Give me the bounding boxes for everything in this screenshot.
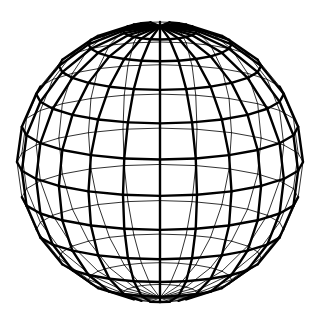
meridian-line: [62, 174, 72, 209]
latitude-line: [62, 99, 91, 104]
latitude-line: [248, 109, 268, 115]
figure-canvas: [0, 0, 318, 323]
latitude-line: [160, 195, 197, 196]
latitude-line: [186, 279, 210, 281]
latitude-line: [124, 229, 160, 230]
latitude-line: [170, 285, 179, 286]
latitude-line: [72, 241, 88, 246]
latitude-line: [62, 169, 91, 174]
meridian-line: [211, 205, 222, 238]
latitude-line: [160, 94, 196, 95]
meridian-line: [258, 104, 261, 138]
latitude-line: [232, 78, 248, 83]
latitude-line: [186, 87, 210, 89]
latitude-line: [197, 191, 231, 194]
latitude-line: [211, 53, 222, 57]
latitude-line: [124, 164, 160, 165]
latitude-line: [197, 129, 231, 132]
meridian-line: [196, 158, 197, 194]
latitude-line: [186, 235, 210, 237]
latitude-line: [72, 205, 98, 210]
meridian-line: [179, 61, 187, 89]
latitude-line: [196, 166, 229, 169]
meridian-line: [22, 94, 36, 127]
latitude-line: [123, 195, 160, 196]
latitude-line: [211, 237, 232, 241]
meridian-line: [40, 181, 52, 215]
latitude-line: [36, 179, 59, 186]
meridian-line: [196, 95, 197, 129]
meridian-line: [109, 59, 124, 87]
meridian-line: [192, 229, 196, 258]
meridian-line: [248, 174, 258, 209]
latitude-line: [134, 234, 160, 235]
meridian-line: [248, 115, 258, 150]
latitude-line: [248, 72, 258, 78]
latitude-line: [124, 94, 160, 95]
latitude-line: [53, 109, 73, 115]
meridian-line: [89, 155, 91, 191]
latitude-line: [59, 133, 89, 138]
meridian-line: [124, 122, 128, 158]
wireframe-sphere: [0, 0, 318, 323]
latitude-line: [232, 133, 262, 138]
latitude-line: [179, 59, 196, 61]
meridian-line: [59, 186, 62, 220]
latitude-line: [109, 265, 124, 268]
front-grid-lines: [17, 22, 303, 302]
meridian-line: [192, 122, 196, 158]
meridian-line: [98, 205, 109, 238]
latitude-line: [109, 279, 133, 281]
latitude-line: [196, 225, 229, 228]
latitude-line: [124, 59, 141, 61]
meridian-line: [72, 83, 88, 115]
meridian-line: [222, 119, 229, 155]
latitude-line: [128, 122, 160, 123]
latitude-line: [128, 287, 134, 289]
latitude-line: [160, 61, 179, 62]
meridian-line: [284, 94, 298, 127]
meridian-line: [128, 89, 134, 122]
meridian-line: [89, 99, 91, 133]
latitude-line: [160, 281, 186, 282]
latitude-line: [229, 220, 258, 225]
latitude-line: [91, 225, 124, 228]
latitude-line: [160, 164, 196, 165]
latitude-line: [196, 265, 211, 268]
meridian-line: [196, 59, 211, 87]
latitude-line: [72, 78, 88, 83]
meridian-line: [59, 104, 62, 138]
latitude-line: [160, 65, 192, 66]
latitude-line: [229, 169, 258, 174]
latitude-line: [232, 186, 262, 191]
latitude-line: [128, 65, 160, 66]
meridian-line: [98, 87, 109, 120]
latitude-line: [229, 99, 258, 104]
latitude-line: [179, 263, 196, 265]
latitude-line: [98, 255, 128, 258]
latitude-line: [89, 129, 123, 132]
latitude-line: [222, 115, 248, 120]
latitude-line: [62, 72, 72, 78]
latitude-line: [62, 150, 91, 155]
latitude-line: [27, 135, 41, 143]
meridian-line: [89, 191, 91, 225]
latitude-line: [62, 220, 91, 225]
latitude-line: [109, 235, 133, 237]
meridian-line: [123, 95, 124, 129]
meridian-line: [109, 237, 124, 265]
meridian-line: [258, 186, 261, 220]
meridian-line: [196, 237, 211, 265]
latitude-line: [196, 95, 229, 98]
latitude-line: [160, 201, 192, 202]
meridian-line: [123, 195, 124, 229]
latitude-line: [141, 263, 160, 264]
meridian-line: [91, 169, 98, 205]
latitude-line: [72, 115, 98, 120]
latitude-line: [91, 155, 124, 158]
latitude-line: [232, 241, 248, 246]
latitude-line: [160, 234, 186, 235]
latitude-line: [261, 179, 284, 186]
latitude-line: [186, 287, 192, 289]
meridian-line: [134, 61, 142, 89]
